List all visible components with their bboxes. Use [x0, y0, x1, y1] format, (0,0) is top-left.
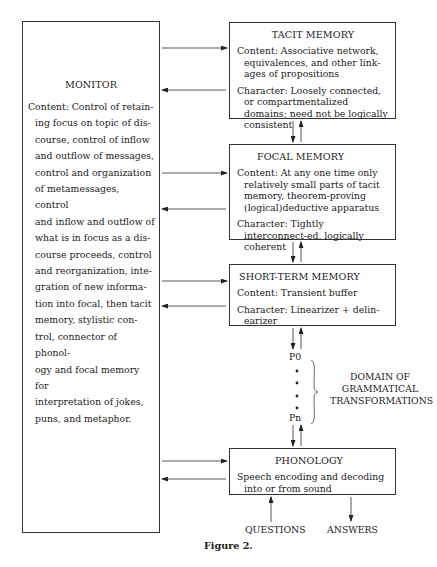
monitor-title: MONITOR [23, 79, 159, 90]
tacit-memory-box: TACIT MEMORY Content: Associative networ… [229, 22, 396, 119]
monitor-line: and outflow of messages, [29, 148, 155, 164]
p0-label: P0 [289, 351, 301, 362]
ellipsis-dot [296, 370, 299, 373]
figure-caption: Figure 2. [204, 540, 253, 551]
questions-label: QUESTIONS [245, 524, 300, 535]
monitor-line: tion into focal, then tacit [29, 296, 155, 312]
focal-memory-box: FOCAL MEMORY Content: At any one time on… [229, 144, 396, 240]
short-term-memory-box: SHORT-TERM MEMORY Content: Transient buf… [229, 264, 396, 326]
tacit-memory-content: Content: Associative network, equivalenc… [237, 45, 389, 80]
domain-brace [311, 360, 318, 424]
monitor-line: puns, and metaphor. [29, 411, 155, 427]
monitor-line: gration of new informa- [29, 279, 155, 295]
focal-memory-content: Content: At any one time only relatively… [237, 167, 389, 213]
short-term-memory-content: Content: Transient buffer [237, 287, 389, 299]
ellipsis-dot [296, 407, 299, 410]
monitor-line: trol, connector of phonol- [29, 329, 155, 362]
monitor-content: Content: Control of retain- ing focus on… [23, 99, 159, 427]
phonology-box: PHONOLOGY Speech encoding and decoding i… [229, 448, 396, 495]
monitor-line: of metamessages, control [29, 181, 155, 214]
monitor-line: what is in focus as a dis- [29, 230, 155, 246]
monitor-line: and inflow and outflow of [29, 214, 155, 230]
monitor-line: interpretation of jokes, [29, 394, 155, 410]
focal-memory-title: FOCAL MEMORY [237, 151, 389, 162]
monitor-line: ing focus on topic of dis- [29, 115, 155, 131]
monitor-line: control and organization [29, 165, 155, 181]
pn-label: Pn [289, 412, 301, 423]
monitor-line: memory, stylistic con- [29, 312, 155, 328]
tacit-memory-title: TACIT MEMORY [237, 29, 389, 40]
short-term-memory-title: SHORT-TERM MEMORY [237, 271, 389, 282]
short-term-memory-character: Character: Linearizer + delin-earizer [237, 304, 389, 327]
monitor-line: Content: Control of retain- [28, 99, 155, 115]
domain-label-line2: GRAMMATICAL [330, 383, 430, 394]
ellipsis-dot [296, 395, 299, 398]
domain-label-line3: TRANSFORMATIONS [330, 395, 430, 406]
phonology-title: PHONOLOGY [237, 455, 389, 466]
focal-memory-character: Character: Tightly interconnect-ed, logi… [237, 218, 389, 253]
answers-label: ANSWERS [325, 524, 380, 535]
ellipsis-dot [296, 382, 299, 385]
monitor-line: course proceeds, control [29, 247, 155, 263]
domain-label-line1: DOMAIN OF [330, 371, 430, 382]
monitor-box: MONITOR Content: Control of retain- ing … [22, 21, 160, 533]
tacit-memory-character: Character: Loosely connected, or compart… [237, 85, 389, 131]
monitor-line: ogy and focal memory for [29, 362, 155, 395]
phonology-content: Speech encoding and decoding into or fro… [237, 471, 389, 494]
monitor-line: and reorganization, inte- [29, 263, 155, 279]
monitor-line: course, control of inflow [29, 132, 155, 148]
